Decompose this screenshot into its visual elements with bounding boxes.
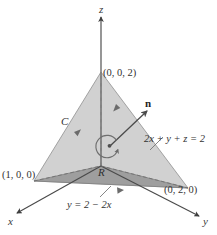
z-axis-label: z: [99, 4, 103, 15]
curve-C-label: C: [61, 116, 68, 127]
curve-arrow-bottom: [117, 187, 124, 194]
normal-vector-label: n: [145, 98, 151, 109]
y-axis-label: y: [203, 216, 208, 227]
region-R-label: R: [98, 167, 105, 178]
vertex-label-y-intercept: (0, 2, 0): [164, 185, 197, 196]
geometry-figure: z x y (0, 0, 2) (1, 0, 0) (0, 2, 0) C n …: [0, 0, 217, 235]
vertex-label-x-intercept: (1, 0, 0): [2, 170, 35, 181]
circulation-center-dot: [108, 144, 112, 148]
boundary-line-leader: [100, 186, 111, 197]
vertex-label-z-intercept: (0, 0, 2): [103, 68, 136, 79]
x-axis-label: x: [8, 216, 13, 227]
plane-equation-label: 2x + y + z = 2: [144, 134, 205, 145]
boundary-line-label: y = 2 − 2x: [67, 200, 112, 211]
